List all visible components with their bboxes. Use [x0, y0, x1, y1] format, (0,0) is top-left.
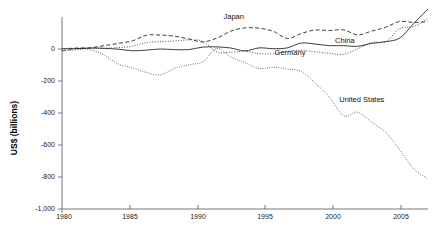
x-tick-label-4: 2000	[325, 213, 341, 220]
x-tick-label-5: 2005	[393, 213, 409, 220]
y-tick-label-3: -600	[41, 141, 55, 148]
series-line-japan	[62, 21, 428, 50]
series-label-china: China	[335, 36, 355, 45]
y-tick-label-2: -400	[41, 109, 55, 116]
y-tick-label-1: -200	[41, 77, 55, 84]
series-label-united-states: United States	[339, 95, 384, 104]
y-axis-tick-labels: 0 -200 -400 -600 -800 -1,000	[35, 45, 55, 212]
series-label-japan: Japan	[223, 12, 243, 21]
x-tick-label-1: 1985	[122, 213, 138, 220]
series-label-germany: Germany	[275, 48, 306, 57]
chart-canvas: 0 -200 -400 -600 -800 -1,000 1980 1985 1…	[0, 0, 435, 248]
y-tick-label-4: -800	[41, 173, 55, 180]
x-axis-tick-labels: 1980 1985 1990 1995 2000 2005	[56, 213, 409, 220]
series-annotations: JapanChinaGermanyUnited States	[223, 12, 384, 103]
x-tick-label-0: 1980	[56, 213, 72, 220]
y-axis-ticks	[58, 49, 62, 209]
y-axis-title: US$ (billions)	[9, 101, 19, 155]
series-line-china	[62, 9, 428, 51]
y-tick-label-5: -1,000	[35, 205, 55, 212]
y-tick-label-0: 0	[51, 45, 55, 52]
current-account-balance-chart: 0 -200 -400 -600 -800 -1,000 1980 1985 1…	[0, 0, 435, 248]
x-tick-label-3: 1995	[257, 213, 273, 220]
x-tick-label-2: 1990	[190, 213, 206, 220]
series-line-united-states	[62, 48, 428, 179]
